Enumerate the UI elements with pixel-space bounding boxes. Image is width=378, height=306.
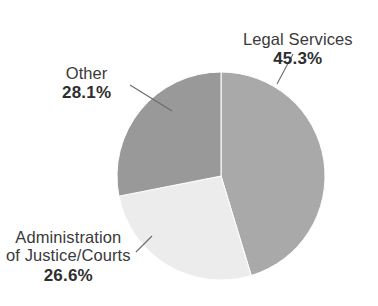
- pie-label-administration-percent: 26.6%: [6, 266, 131, 285]
- pie-label-other: Other 28.1%: [62, 64, 111, 103]
- pie-label-other-percent: 28.1%: [62, 83, 111, 102]
- pie-label-administration: Administration of Justice/Courts 26.6%: [6, 228, 131, 285]
- pie-slice-other[interactable]: [117, 72, 221, 196]
- pie-label-administration-name-line1: Administration: [6, 228, 131, 246]
- pie-label-legal-services-percent: 45.3%: [243, 49, 353, 68]
- pie-label-other-name: Other: [62, 64, 111, 82]
- pie-chart: Legal Services 45.3% Other 28.1% Adminis…: [0, 0, 378, 306]
- pie-label-legal-services: Legal Services 45.3%: [243, 30, 353, 69]
- pie-label-administration-name-line2: of Justice/Courts: [6, 246, 131, 264]
- pie-label-legal-services-name: Legal Services: [243, 30, 353, 48]
